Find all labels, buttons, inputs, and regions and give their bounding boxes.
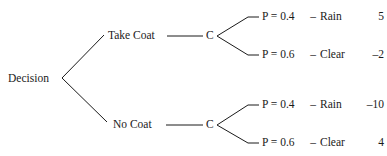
edge-chance-bottom-to-rain xyxy=(217,105,248,125)
outcome-state: Rain xyxy=(320,98,358,111)
outcome-row: P = 0.6 – Clear –2 xyxy=(262,48,384,61)
outcome-payoff: –10 xyxy=(358,98,384,111)
outcome-probability: P = 0.6 xyxy=(262,48,306,61)
outcome-separator: – xyxy=(306,10,320,23)
outcome-state: Rain xyxy=(320,10,358,23)
outcome-separator: – xyxy=(306,98,320,111)
outcome-separator: – xyxy=(306,136,320,149)
edge-chance-top-to-rain xyxy=(217,17,248,36)
edge-chance-bottom-to-clear xyxy=(217,125,248,143)
edge-decision-to-take-coat xyxy=(62,35,104,78)
chance-node-take-coat: C xyxy=(206,29,214,42)
outcome-probability: P = 0.6 xyxy=(262,136,306,149)
outcome-row: P = 0.6 – Clear 4 xyxy=(262,136,384,149)
edge-decision-to-no-coat xyxy=(62,78,107,122)
branch-label-take-coat: Take Coat xyxy=(108,29,155,42)
outcome-probability: P = 0.4 xyxy=(262,10,306,23)
outcome-payoff: –2 xyxy=(358,48,384,61)
edge-chance-top-to-clear xyxy=(217,36,248,55)
outcome-separator: – xyxy=(306,48,320,61)
outcome-state: Clear xyxy=(320,48,358,61)
outcome-state: Clear xyxy=(320,136,358,149)
outcome-row: P = 0.4 – Rain –10 xyxy=(262,98,384,111)
outcome-payoff: 5 xyxy=(358,10,384,23)
outcome-probability: P = 0.4 xyxy=(262,98,306,111)
outcome-row: P = 0.4 – Rain 5 xyxy=(262,10,384,23)
decision-tree-canvas xyxy=(0,0,387,156)
outcome-payoff: 4 xyxy=(358,136,384,149)
chance-node-no-coat: C xyxy=(206,118,214,131)
branch-label-no-coat: No Coat xyxy=(113,118,152,131)
decision-root-node-label: Decision xyxy=(8,72,49,85)
